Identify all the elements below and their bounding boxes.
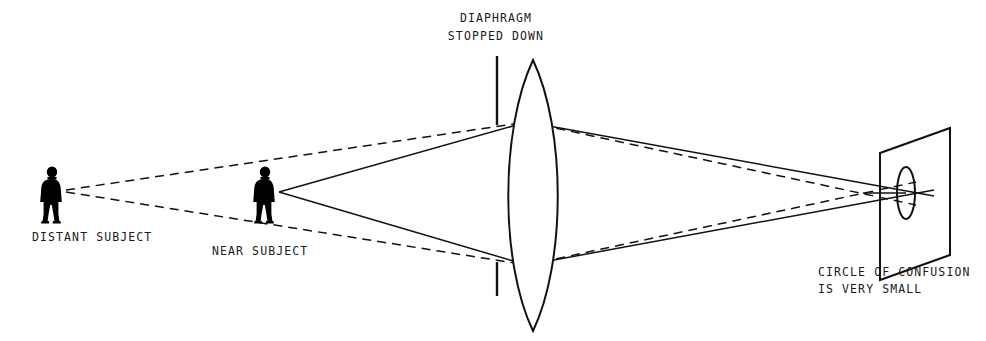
distant-ray-upper-outgoing	[527, 122, 916, 205]
near-subject-label: NEAR SUBJECT	[212, 244, 308, 258]
near-ray-upper-incoming	[279, 122, 527, 192]
distant-ray-upper-incoming	[66, 122, 527, 190]
near-subject-figure	[253, 166, 275, 223]
diaphragm-label-line1: DIAPHRAGM	[460, 11, 532, 25]
distant-subject-figure	[40, 166, 62, 223]
lens-element	[508, 60, 558, 331]
near-ray-upper-outgoing	[527, 122, 934, 196]
optics-diagram-canvas: DIAPHRAGM STOPPED DOWN DISTANT SUBJECT N…	[0, 0, 986, 341]
distant-ray-lower-outgoing	[527, 182, 916, 265]
distant-subject-label: DISTANT SUBJECT	[32, 230, 152, 244]
circle-of-confusion-label-line2: IS VERY SMALL	[818, 282, 922, 296]
diaphragm-label-line2: STOPPED DOWN	[448, 29, 544, 43]
optics-diagram: DIAPHRAGM STOPPED DOWN DISTANT SUBJECT N…	[0, 0, 986, 341]
near-ray-lower-incoming	[279, 192, 527, 265]
distant-subject-ray-bundle	[66, 122, 916, 265]
near-subject-ray-bundle	[279, 122, 934, 265]
near-ray-lower-outgoing	[527, 190, 934, 265]
circle-of-confusion-label-line1: CIRCLE OF CONFUSION	[818, 265, 970, 279]
